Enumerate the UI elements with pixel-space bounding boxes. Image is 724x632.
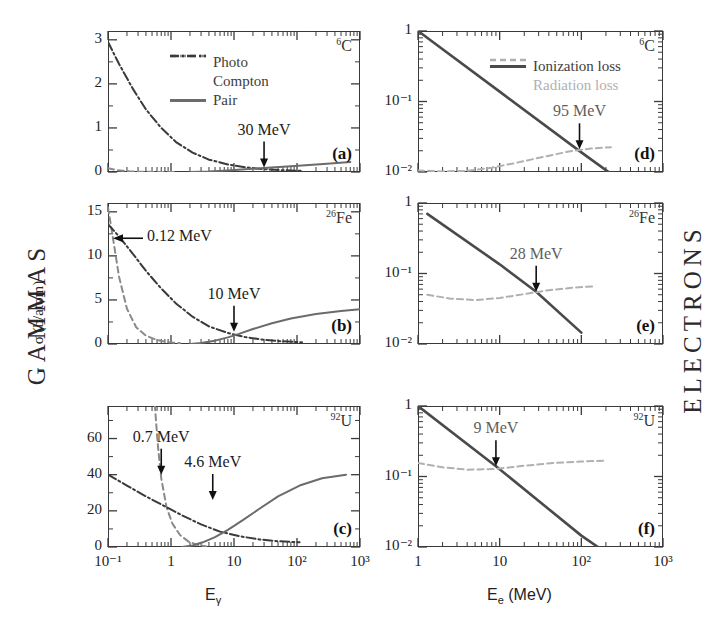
right-xaxis-title-base: E: [487, 586, 498, 603]
legend-label: Radiation loss: [533, 78, 618, 93]
isotope-label-d: 6C: [639, 36, 655, 55]
isotope-label-b: 26Fe: [326, 208, 352, 227]
isotope-label-e: 26Fe: [629, 208, 655, 227]
right-xaxis-title-sub: e: [498, 594, 504, 606]
panel-c: 0.7 MeV4.6 MeV92U(c): [108, 406, 360, 547]
right-xaxis-title: Ee (MeV): [487, 586, 552, 606]
isotope-z-e: 26: [629, 208, 639, 219]
ytick-d-10⁻¹: 10⁻¹: [370, 93, 412, 108]
isotope-label-a: 6C: [336, 36, 352, 55]
isotope-z-c: 92: [330, 411, 340, 422]
legend-item-radiation-loss: Radiation loss: [490, 76, 621, 95]
ytick-b-10: 10: [60, 247, 102, 262]
isotope-z-b: 26: [326, 208, 336, 219]
isotope-symbol-f: U: [643, 412, 655, 429]
legend-label: Compton: [213, 74, 269, 89]
left-xaxis-title: Eγ: [205, 586, 221, 606]
xtick-c-10³: 10³: [330, 554, 390, 569]
isotope-label-c: 92U: [330, 411, 352, 430]
electron-legend: Ionization lossRadiation loss: [490, 57, 621, 95]
xtick-c-10²: 10²: [267, 554, 327, 569]
legend-key-dashed-icon: [490, 83, 526, 89]
ytick-b-5: 5: [60, 291, 102, 306]
ytick-a-3: 3: [60, 31, 102, 46]
ytick-a-0: 0: [60, 163, 102, 178]
ytick-e-1: 1: [370, 194, 412, 209]
ytick-f-10⁻¹: 10⁻¹: [370, 468, 412, 483]
column-label-electrons: ELECTRONS: [679, 224, 707, 414]
panel-f: 9 MeV92U(f): [418, 406, 663, 547]
isotope-symbol-d: C: [644, 37, 655, 54]
ytick-b-0: 0: [60, 335, 102, 350]
panel-f-annotations: [418, 406, 663, 547]
legend-label: Ionization loss: [533, 59, 621, 74]
legend-key-solid-icon: [170, 99, 206, 102]
panel-b: 0.12 MeV10 MeV26Fe(b): [108, 203, 360, 344]
ytick-e-10⁻²: 10⁻²: [370, 335, 412, 350]
panel-letter-e: (e): [636, 316, 655, 336]
panel-b-annotations: [108, 203, 360, 344]
panel-letter-d: (d): [634, 144, 655, 164]
legend-item-pair: Pair: [170, 91, 269, 110]
ytick-d-1: 1: [370, 22, 412, 37]
legend-key-dashed-icon: [170, 60, 206, 66]
left-xaxis-title-base: E: [205, 586, 216, 603]
isotope-symbol-b: Fe: [336, 209, 352, 226]
panel-e-annotations: [418, 203, 663, 344]
panel-c-annotations: [108, 406, 360, 547]
left-xaxis-title-sub: γ: [216, 594, 222, 606]
xtick-f-10²: 10²: [551, 554, 611, 569]
isotope-z-f: 92: [633, 411, 643, 422]
ytick-a-2: 2: [60, 75, 102, 90]
gamma-legend: PhotoComptonPair: [170, 53, 269, 110]
legend-label: Pair: [213, 93, 237, 108]
figure-root: GAMMAS σ (b/atom) ELECTRONS Eγ Ee (MeV) …: [0, 0, 724, 632]
panel-letter-c: (c): [333, 519, 352, 539]
left-yaxis-title: σ (b/atom): [31, 253, 46, 373]
legend-item-compton: Compton: [170, 72, 269, 91]
panel-letter-b: (b): [331, 316, 352, 336]
isotope-label-f: 92U: [633, 411, 655, 430]
ytick-c-40: 40: [60, 466, 102, 481]
ytick-e-10⁻¹: 10⁻¹: [370, 265, 412, 280]
legend-label: Photo: [213, 55, 248, 70]
isotope-symbol-e: Fe: [639, 209, 655, 226]
legend-key-solid-icon: [490, 65, 526, 68]
ytick-c-60: 60: [60, 430, 102, 445]
legend-key-dashdot-icon: [170, 79, 206, 85]
panel-letter-f: (f): [638, 519, 655, 539]
ytick-b-15: 15: [60, 203, 102, 218]
ytick-f-10⁻²: 10⁻²: [370, 538, 412, 553]
right-xaxis-title-unit: (MeV): [508, 586, 552, 603]
xtick-c-10: 10: [204, 554, 264, 569]
isotope-symbol-c: U: [340, 412, 352, 429]
panel-letter-a: (a): [332, 144, 352, 164]
xtick-c-10⁻¹: 10⁻¹: [78, 554, 138, 569]
isotope-symbol-a: C: [341, 37, 352, 54]
xtick-c-1: 1: [141, 554, 201, 569]
ytick-a-1: 1: [60, 119, 102, 134]
ytick-c-20: 20: [60, 502, 102, 517]
panel-d: 95 MeV6C(d): [418, 31, 663, 172]
ytick-c-0: 0: [60, 538, 102, 553]
xtick-f-10: 10: [470, 554, 530, 569]
xtick-f-1: 1: [388, 554, 448, 569]
ytick-d-10⁻²: 10⁻²: [370, 163, 412, 178]
xtick-f-10³: 10³: [633, 554, 693, 569]
panel-e: 28 MeV26Fe(e): [418, 203, 663, 344]
panel-d-annotations: [418, 31, 663, 172]
ytick-f-1: 1: [370, 397, 412, 412]
